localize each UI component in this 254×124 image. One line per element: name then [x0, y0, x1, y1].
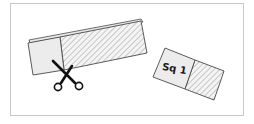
- diagram-canvas: Sq 1: [0, 0, 254, 124]
- strip-square-section: [28, 37, 64, 75]
